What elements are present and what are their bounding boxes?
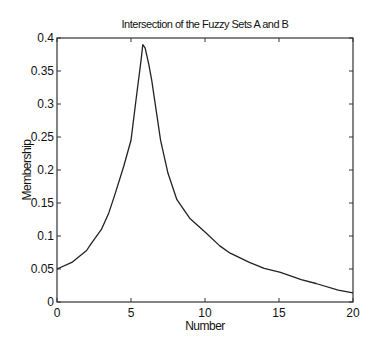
x-tick-label: 20 <box>346 306 360 320</box>
data-line-intersection <box>57 45 353 293</box>
chart-title: Intersection of the Fuzzy Sets A and B <box>122 18 289 30</box>
y-tick-label: 0.15 <box>31 196 55 210</box>
x-tick-label: 10 <box>198 306 212 320</box>
x-axis-ticks: 05101520 <box>54 38 360 320</box>
y-tick-label: 0.35 <box>31 64 55 78</box>
y-tick-label: 0.05 <box>31 262 55 276</box>
y-axis-ticks: 00.050.10.150.20.250.30.350.4 <box>31 31 353 309</box>
x-tick-label: 15 <box>272 306 286 320</box>
plot-frame <box>57 38 353 302</box>
chart: Intersection of the Fuzzy Sets A and B 0… <box>0 0 377 351</box>
y-tick-label: 0.4 <box>37 31 54 45</box>
y-tick-label: 0.1 <box>37 229 54 243</box>
y-tick-label: 0.25 <box>31 130 55 144</box>
x-tick-label: 0 <box>54 306 61 320</box>
y-axis-label: Membership <box>20 139 34 201</box>
y-tick-label: 0.2 <box>37 163 54 177</box>
y-tick-label: 0.3 <box>37 97 54 111</box>
y-tick-label: 0 <box>47 295 54 309</box>
x-axis-label: Number <box>185 319 225 333</box>
x-tick-label: 5 <box>128 306 135 320</box>
plot-border <box>57 38 353 302</box>
